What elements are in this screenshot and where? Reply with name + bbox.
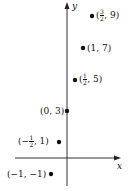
point-label-1-7: (1, 7) xyxy=(87,43,111,53)
point-1.5-9 xyxy=(90,14,94,18)
point-neg0.5-1 xyxy=(57,140,61,144)
x-axis-label: x xyxy=(117,161,122,171)
point-1-7 xyxy=(81,46,85,50)
point-label-1.5-9: (32, 9) xyxy=(96,9,119,22)
point-0.5-5 xyxy=(73,78,77,82)
point-0-3 xyxy=(65,109,69,113)
y-axis-label: y xyxy=(72,1,77,11)
point-neg1-neg1 xyxy=(49,172,53,176)
plot-area xyxy=(0,0,132,191)
point-label-0-3: (0, 3) xyxy=(40,106,64,116)
point-label-neg0.5-1: (−12, 1) xyxy=(18,135,49,148)
y-axis-arrow-icon xyxy=(65,2,70,9)
x-axis-arrow-icon xyxy=(114,156,121,161)
point-label-neg1-neg1: (−1, −1) xyxy=(7,169,46,179)
point-label-0.5-5: (12, 5) xyxy=(79,73,102,86)
